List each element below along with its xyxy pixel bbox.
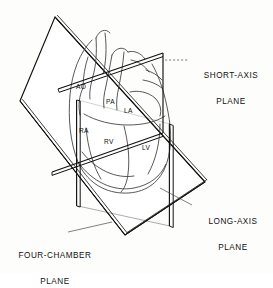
left-pulmonary-branch: [128, 51, 145, 59]
four-chamber-plane-label: FOUR-CHAMBER PLANE: [6, 235, 104, 288]
four-chamber-leader-line: [68, 222, 112, 232]
aortic-arch: [96, 30, 110, 38]
pulmonary-bifurcation: [112, 48, 128, 55]
anatomy-label-la: LA: [124, 108, 133, 115]
anatomy-label-ao: AO: [76, 84, 86, 91]
short-axis-plane-label-line2: PLANE: [190, 98, 272, 107]
anatomy-label-pa: PA: [106, 99, 115, 106]
anatomy-label-ra: RA: [79, 128, 89, 135]
short-axis-plane-label-line1: SHORT-AXIS: [190, 72, 272, 81]
long-axis-plane-label: LONG-AXIS PLANE: [194, 201, 272, 270]
short-axis-plane-label: SHORT-AXIS PLANE: [190, 55, 272, 124]
anatomy-label-lv: LV: [142, 145, 150, 152]
four-chamber-plane-label-line1: FOUR-CHAMBER: [6, 252, 104, 261]
long-axis-plane-label-line2: PLANE: [194, 244, 272, 253]
anatomy-label-rv: RV: [104, 139, 114, 146]
long-axis-plane-label-line1: LONG-AXIS: [194, 218, 272, 227]
four-chamber-plane-label-line2: PLANE: [6, 278, 104, 287]
long-axis-edge-right-bottom-cap: [169, 226, 173, 228]
